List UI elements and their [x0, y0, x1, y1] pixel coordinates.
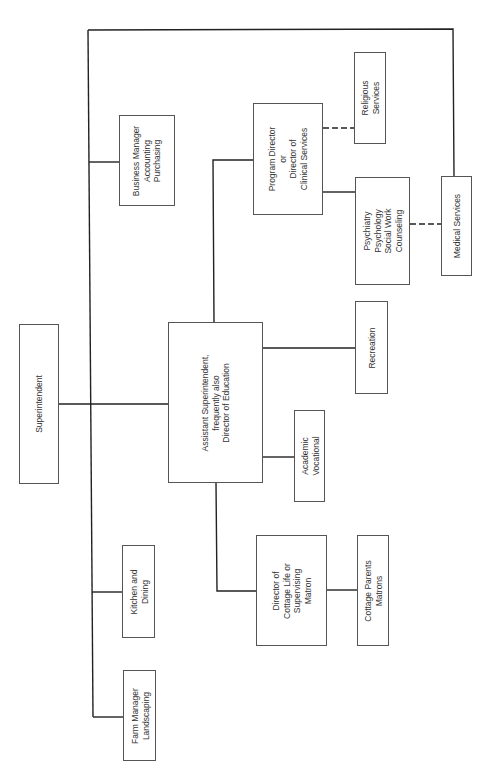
box-assistant-superintendent: Assistant Superintendent, frequently als… [168, 322, 263, 483]
box-religious-services: Religious Services [354, 52, 386, 144]
label-religious-services: Religious Services [360, 81, 381, 116]
label-cottage-parents: Cottage Parents Matrons [363, 560, 384, 621]
label-superintendent: Superintendent [34, 375, 45, 433]
box-academic-vocational: Academic Vocational [294, 410, 325, 502]
label-kitchen-dining: Kitchen and Dining [128, 569, 149, 614]
label-program-director: Program Director or Director of Clinical… [267, 127, 309, 192]
label-recreation: Recreation [366, 327, 377, 368]
label-psychiatry: Psychiatry Psychology Social Work Counse… [362, 208, 404, 253]
box-director-cottage-life: Director of Cottage Life or Supervising … [256, 535, 327, 646]
label-director-cottage-life: Director of Cottage Life or Supervising … [271, 563, 313, 619]
box-cottage-parents: Cottage Parents Matrons [357, 535, 389, 646]
box-recreation: Recreation [355, 301, 388, 394]
box-farm-manager: Farm Manager Landscaping [123, 670, 156, 761]
box-psychiatry: Psychiatry Psychology Social Work Counse… [355, 177, 410, 285]
box-superintendent: Superintendent [19, 324, 59, 484]
label-assistant-superintendent: Assistant Superintendent, frequently als… [200, 354, 232, 451]
box-business-manager: Business Manager Accounting Purchasing [119, 115, 175, 206]
label-academic-vocational: Academic Vocational [299, 436, 320, 475]
main-trunk [88, 30, 93, 717]
label-farm-manager: Farm Manager Landscaping [129, 688, 150, 744]
label-medical-services: Medical Services [451, 194, 462, 258]
box-medical-services: Medical Services [441, 176, 472, 276]
box-kitchen-dining: Kitchen and Dining [122, 545, 155, 638]
box-program-director: Program Director or Director of Clinical… [253, 103, 323, 215]
label-business-manager: Business Manager Accounting Purchasing [131, 125, 163, 195]
